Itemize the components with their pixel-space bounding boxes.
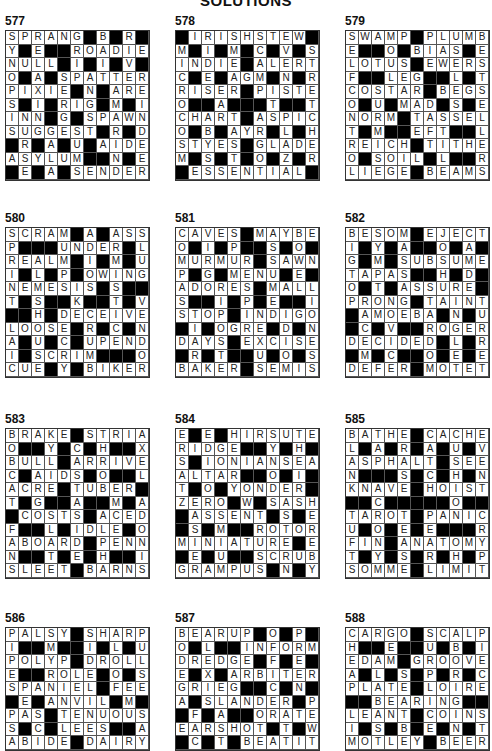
letter-cell: H: [241, 31, 254, 45]
letter-cell: M: [71, 153, 84, 167]
black-cell: [228, 296, 241, 310]
black-cell: [372, 470, 385, 484]
black-cell: [437, 456, 450, 470]
letter-cell: T: [346, 551, 359, 565]
black-cell: [398, 45, 411, 59]
letter-cell: O: [437, 483, 450, 497]
letter-cell: B: [411, 45, 424, 59]
letter-cell: R: [267, 709, 280, 723]
black-cell: [176, 709, 189, 723]
black-cell: [58, 551, 71, 565]
black-cell: [359, 497, 372, 511]
letter-cell: E: [424, 58, 437, 72]
letter-cell: A: [32, 255, 45, 269]
letter-cell: Y: [372, 242, 385, 256]
letter-cell: G: [228, 323, 241, 337]
letter-cell: R: [241, 323, 254, 337]
letter-cell: M: [463, 166, 476, 180]
letter-cell: E: [476, 655, 489, 669]
letter-cell: L: [45, 255, 58, 269]
letter-cell: E: [71, 309, 84, 323]
letter-cell: S: [228, 228, 241, 242]
black-cell: [97, 282, 110, 296]
letter-cell: O: [32, 510, 45, 524]
crossword-grid: BATHECACHELARAUVASPHALTSEENSCHNKNAVEHOIS…: [345, 428, 490, 579]
letter-cell: I: [84, 255, 97, 269]
letter-cell: N: [228, 456, 241, 470]
letter-cell: L: [476, 112, 489, 126]
letter-cell: N: [346, 112, 359, 126]
letter-cell: N: [346, 470, 359, 484]
letter-cell: E: [58, 85, 71, 99]
letter-cell: F: [424, 126, 437, 140]
black-cell: [424, 72, 437, 86]
black-cell: [359, 153, 372, 167]
letter-cell: N: [241, 510, 254, 524]
letter-cell: W: [306, 723, 319, 737]
letter-cell: E: [45, 282, 58, 296]
letter-cell: P: [280, 112, 293, 126]
crossword-grid: SPRANGBRYEROADIENULLIIVOASPATTERPIXIENAR…: [5, 30, 150, 181]
letter-cell: U: [19, 456, 32, 470]
page-title: SOLUTIONS: [0, 0, 492, 9]
letter-cell: U: [19, 58, 32, 72]
black-cell: [437, 669, 450, 683]
letter-cell: Y: [306, 564, 319, 578]
black-cell: [385, 282, 398, 296]
black-cell: [110, 470, 123, 484]
letter-cell: R: [58, 99, 71, 113]
black-cell: [58, 139, 71, 153]
letter-cell: S: [267, 429, 280, 443]
letter-cell: A: [437, 45, 450, 59]
crossword-grid: IRISHSTEWMIMCVSINDIEALERTCEAGMNRRISERPIS…: [175, 30, 320, 181]
letter-cell: I: [110, 139, 123, 153]
letter-cell: U: [293, 551, 306, 565]
black-cell: [136, 696, 149, 710]
letter-cell: U: [424, 642, 437, 656]
letter-cell: X: [202, 669, 215, 683]
letter-cell: I: [463, 510, 476, 524]
letter-cell: I: [450, 682, 463, 696]
black-cell: [359, 524, 372, 538]
letter-cell: D: [176, 655, 189, 669]
black-cell: [215, 153, 228, 167]
letter-cell: O: [215, 497, 228, 511]
letter-cell: D: [346, 336, 359, 350]
black-cell: [359, 642, 372, 656]
letter-cell: T: [97, 429, 110, 443]
letter-cell: O: [424, 350, 437, 364]
black-cell: [45, 363, 58, 377]
letter-cell: L: [45, 524, 58, 538]
letter-cell: A: [372, 31, 385, 45]
letter-cell: R: [97, 456, 110, 470]
letter-cell: A: [359, 429, 372, 443]
black-cell: [346, 323, 359, 337]
black-cell: [189, 45, 202, 59]
black-cell: [84, 296, 97, 310]
letter-cell: R: [32, 31, 45, 45]
letter-cell: H: [463, 429, 476, 443]
letter-cell: A: [280, 166, 293, 180]
black-cell: [71, 429, 84, 443]
letter-cell: I: [293, 363, 306, 377]
black-cell: [411, 483, 424, 497]
letter-cell: S: [293, 497, 306, 511]
letter-cell: U: [84, 483, 97, 497]
letter-cell: E: [398, 166, 411, 180]
letter-cell: P: [241, 628, 254, 642]
letter-cell: L: [267, 58, 280, 72]
black-cell: [241, 682, 254, 696]
black-cell: [411, 242, 424, 256]
letter-cell: A: [189, 363, 202, 377]
letter-cell: I: [84, 642, 97, 656]
letter-cell: N: [123, 269, 136, 283]
crossword-grid: BRAKESTRIAOYCHXBULLARRIVECAIDSOLACRETUBE…: [5, 428, 150, 579]
letter-cell: A: [411, 99, 424, 113]
black-cell: [189, 72, 202, 86]
letter-cell: R: [189, 682, 202, 696]
black-cell: [32, 551, 45, 565]
black-cell: [71, 628, 84, 642]
letter-cell: R: [293, 483, 306, 497]
letter-cell: S: [437, 255, 450, 269]
letter-cell: L: [32, 655, 45, 669]
